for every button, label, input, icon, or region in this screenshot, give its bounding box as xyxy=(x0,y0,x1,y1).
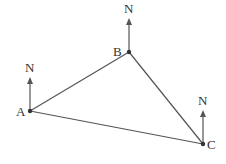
label-b: B xyxy=(113,44,122,59)
north-arrow-b xyxy=(126,18,132,52)
north-arrow-c xyxy=(200,110,206,144)
arrowhead-icon xyxy=(27,77,33,84)
arrowhead-icon xyxy=(200,110,206,117)
north-arrow-a xyxy=(27,77,33,111)
edge-a-b xyxy=(30,52,129,111)
bearing-diagram: A B C N N N xyxy=(0,0,226,164)
label-a: A xyxy=(16,104,26,119)
north-label-a: N xyxy=(25,60,35,75)
edge-a-c xyxy=(30,111,203,144)
edge-b-c xyxy=(129,52,203,144)
point-a xyxy=(28,109,32,113)
north-label-b: N xyxy=(124,1,134,16)
north-label-c: N xyxy=(198,93,208,108)
point-b xyxy=(127,50,131,54)
label-c: C xyxy=(207,137,216,152)
point-c xyxy=(201,142,205,146)
arrowhead-icon xyxy=(126,18,132,25)
